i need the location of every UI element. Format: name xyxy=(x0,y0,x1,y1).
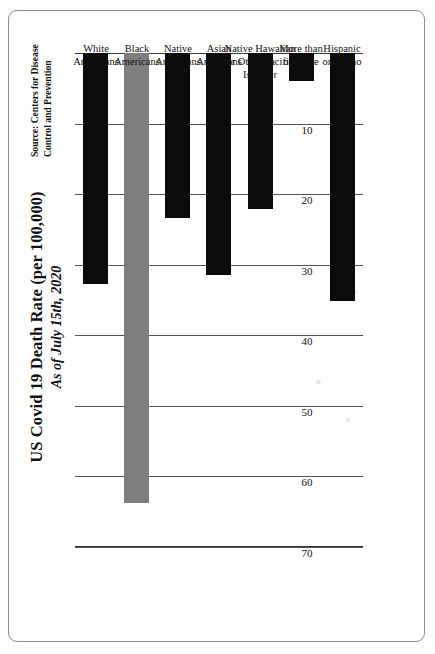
bar-row xyxy=(239,53,280,547)
bar-row xyxy=(321,53,362,547)
bar-asian-americans[interactable] xyxy=(206,53,231,275)
scanned-page: US Covid 19 Death Rate (per 100,000) As … xyxy=(0,0,435,654)
bar-row xyxy=(198,53,239,547)
bar-row xyxy=(157,53,198,547)
bar-row xyxy=(116,53,157,547)
bar-hispanic-or-latino[interactable] xyxy=(329,53,354,301)
category-label-line: Islander xyxy=(217,69,303,82)
bar-black-americans[interactable] xyxy=(124,53,149,503)
axis-tick-label-20: 20 xyxy=(294,194,320,206)
category-label-line: or Latino xyxy=(299,56,385,69)
source-note: Source: Centers for Disease Control and … xyxy=(29,31,54,157)
category-label-hispanic-or-latino: Hispanicor Latino xyxy=(299,43,385,69)
axis-tick-label-60: 60 xyxy=(294,476,320,488)
chart-canvas: US Covid 19 Death Rate (per 100,000) As … xyxy=(13,15,423,639)
axis-tick-label-30: 30 xyxy=(294,265,320,277)
category-label-line: Hispanic xyxy=(299,43,385,56)
bar-native-americans[interactable] xyxy=(165,53,190,218)
axis-tick-label-10: 10 xyxy=(294,124,320,136)
bar-white-americans[interactable] xyxy=(83,53,108,284)
axis-tick-label-70: 70 xyxy=(294,547,320,559)
axis-tick-label-50: 50 xyxy=(294,406,320,418)
bar-row xyxy=(75,53,116,547)
axis-tick-label-40: 40 xyxy=(294,335,320,347)
